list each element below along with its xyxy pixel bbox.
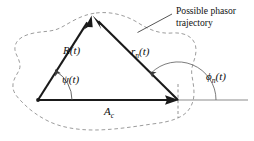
- noise-vector-arrowhead: [93, 16, 104, 29]
- callout-line-1: Possible phasor: [176, 5, 237, 16]
- callout-line-2: trajectory: [176, 17, 213, 28]
- label-resultant: R(t): [62, 44, 80, 57]
- phasor-diagram-canvas: R(t) rn(t) Ac ψ(t) ϕn(t) Possible phasor…: [0, 0, 254, 141]
- label-psi-angle: ψ(t): [62, 73, 80, 86]
- phasor-diagram: R(t) rn(t) Ac ψ(t) ϕn(t) Possible phasor…: [0, 0, 254, 141]
- origin-vertex: [36, 98, 40, 102]
- callout-leader-line: [138, 14, 173, 33]
- label-carrier: Ac: [103, 105, 115, 120]
- noise-vector-rn: [98, 21, 178, 100]
- resultant-vector-r: [38, 22, 87, 100]
- label-phi-angle: ϕn(t): [206, 70, 226, 85]
- resultant-vector-arrowhead: [84, 16, 93, 30]
